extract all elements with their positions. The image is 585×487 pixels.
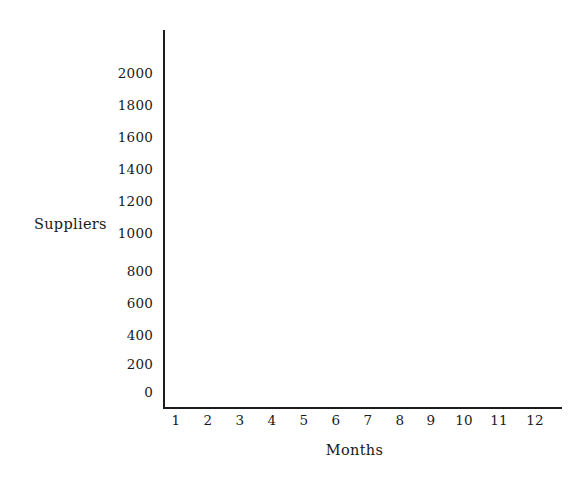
y-axis-line — [163, 30, 165, 409]
y-tick-label: 2000 — [101, 66, 153, 80]
x-axis-line — [163, 407, 562, 409]
x-tick-label: 12 — [515, 412, 555, 428]
x-axis-tick-labels: 1 2 3 4 5 6 7 8 9 10 11 12 — [0, 412, 585, 432]
y-tick-label: 800 — [101, 264, 153, 278]
x-tick-label: 10 — [444, 412, 484, 428]
x-tick-label: 11 — [479, 412, 519, 428]
y-tick-label: 1200 — [101, 194, 153, 208]
y-tick-label: 1000 — [101, 226, 153, 240]
y-tick-label: 0 — [101, 385, 153, 399]
plot-area — [165, 30, 562, 407]
y-tick-label: 1600 — [101, 130, 153, 144]
y-tick-label: 1400 — [101, 162, 153, 176]
y-tick-label: 600 — [101, 296, 153, 310]
x-axis-title-text: Months — [326, 442, 383, 458]
chart-figure: 2000 1800 1600 1400 1200 1000 800 600 40… — [0, 0, 585, 487]
x-axis-title: Months — [0, 441, 585, 459]
y-tick-label: 1800 — [101, 98, 153, 112]
y-axis-title: Suppliers — [34, 215, 107, 233]
y-tick-label: 400 — [101, 328, 153, 342]
y-tick-label: 200 — [101, 357, 153, 371]
